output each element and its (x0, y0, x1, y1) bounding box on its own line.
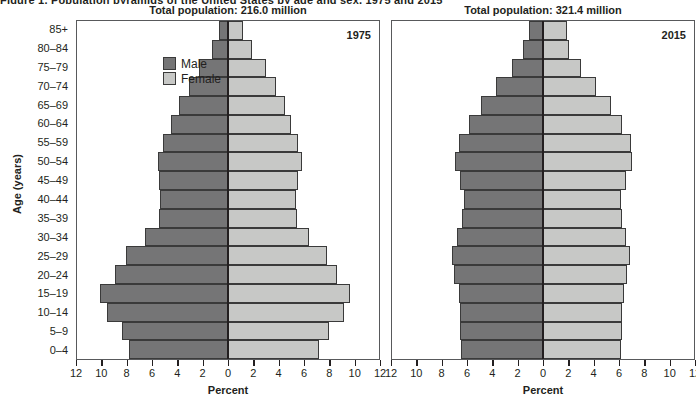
x-tick (355, 360, 356, 366)
bar-male-45-49 (159, 171, 228, 190)
x-tick (492, 360, 493, 366)
y-axis-label-60-64: 60–64 (18, 114, 70, 133)
x-tick-label-11: 10 (659, 367, 681, 379)
x-tick-label-10: 8 (633, 367, 655, 379)
y-axis-label-80-84: 80–84 (18, 39, 70, 58)
female-half (543, 246, 694, 265)
x-tick (127, 360, 128, 366)
bar-male-20-24 (115, 265, 228, 284)
x-tick-label-8: 4 (268, 367, 290, 379)
male-half (392, 228, 543, 247)
female-half (543, 322, 694, 341)
female-half (228, 265, 379, 284)
y-axis-label-45-49: 45–49 (18, 171, 70, 190)
male-half (77, 190, 228, 209)
female-half (228, 96, 379, 115)
male-half (392, 322, 543, 341)
female-half (228, 59, 379, 78)
bar-male-75-79 (512, 59, 543, 78)
female-half (543, 115, 694, 134)
male-half (77, 21, 228, 40)
x-tick-label-4: 4 (166, 367, 188, 379)
bar-female-70-74 (228, 77, 276, 96)
x-tick (644, 360, 645, 366)
x-tick-label-7: 2 (557, 367, 579, 379)
female-half (228, 303, 379, 322)
x-tick (391, 360, 392, 366)
female-half (543, 190, 694, 209)
year-label-2015: 2015 (662, 29, 686, 41)
x-axis-title-2015: Percent (391, 384, 695, 398)
x-tick-label-3: 6 (141, 367, 163, 379)
legend-item-male: Male (163, 57, 221, 70)
bar-male-35-39 (462, 209, 543, 228)
center-axis-line-2015 (542, 21, 543, 359)
x-tick-label-1: 10 (90, 367, 112, 379)
bar-male-15-19 (100, 284, 228, 303)
x-tick (670, 360, 671, 366)
bar-female-60-64 (543, 115, 622, 134)
female-half (228, 209, 379, 228)
male-half (77, 284, 228, 303)
bar-male-60-64 (171, 115, 228, 134)
y-axis-label-35-39: 35–39 (18, 209, 70, 228)
x-axis-tick-labels-1975: 12108642024681012 (76, 367, 380, 381)
x-tick (304, 360, 305, 366)
bar-male-50-54 (455, 152, 543, 171)
male-half (392, 77, 543, 96)
population-pyramid-figure: Figure 1. Population pyramids of the Uni… (0, 0, 696, 405)
x-tick-label-12: 12 (684, 367, 696, 379)
female-half (228, 171, 379, 190)
female-half (228, 340, 379, 359)
male-half (392, 152, 543, 171)
x-tick (594, 360, 595, 366)
male-half (392, 40, 543, 59)
year-label-1975: 1975 (347, 29, 371, 41)
male-half (77, 322, 228, 341)
male-half (392, 284, 543, 303)
male-half (392, 171, 543, 190)
bar-male-5-9 (460, 322, 543, 341)
bar-male-0-4 (461, 340, 543, 359)
bar-female-45-49 (228, 171, 298, 190)
bar-female-60-64 (228, 115, 291, 134)
female-half (228, 134, 379, 153)
y-axis-label-30-34: 30–34 (18, 228, 70, 247)
bar-female-0-4 (228, 340, 319, 359)
x-tick (329, 360, 330, 366)
bar-female-35-39 (228, 209, 297, 228)
female-half (228, 115, 379, 134)
chart-panel-2015: 2015 (391, 20, 695, 360)
y-axis-label-65-69: 65–69 (18, 96, 70, 115)
bar-female-15-19 (543, 284, 624, 303)
female-half (543, 59, 694, 78)
x-tick-label-2: 8 (116, 367, 138, 379)
male-half (392, 59, 543, 78)
x-tick (543, 360, 544, 366)
bar-male-25-29 (126, 246, 228, 265)
x-tick (619, 360, 620, 366)
x-tick (253, 360, 254, 366)
y-axis-label-5-9: 5–9 (18, 322, 70, 341)
male-half (77, 209, 228, 228)
bar-male-25-29 (452, 246, 543, 265)
female-half (228, 284, 379, 303)
bar-male-50-54 (158, 152, 228, 171)
legend: Male Female (163, 57, 221, 87)
x-tick-label-11: 10 (344, 367, 366, 379)
bar-female-5-9 (228, 322, 329, 341)
x-tick (467, 360, 468, 366)
female-half (228, 322, 379, 341)
female-half (543, 284, 694, 303)
bar-male-30-34 (145, 228, 228, 247)
bar-female-65-69 (228, 96, 285, 115)
legend-swatch-female-icon (163, 72, 176, 85)
female-half (543, 77, 694, 96)
bar-male-65-69 (481, 96, 543, 115)
bar-male-40-44 (160, 190, 228, 209)
female-half (543, 228, 694, 247)
bar-male-60-64 (469, 115, 543, 134)
bar-female-20-24 (228, 265, 337, 284)
panel-title-1975: Total population: 216.0 million (76, 4, 380, 18)
male-half (77, 96, 228, 115)
